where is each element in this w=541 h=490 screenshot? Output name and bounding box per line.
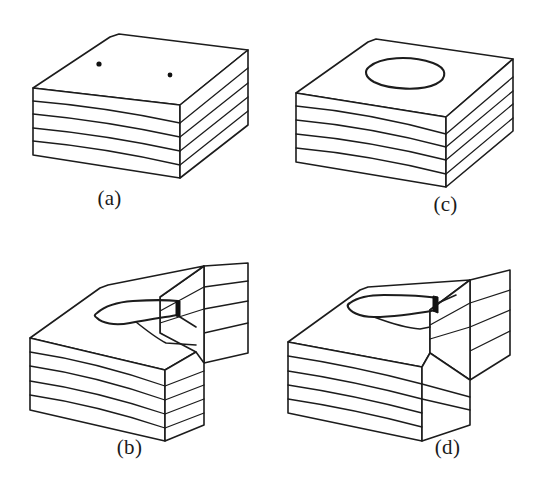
panel-label-c: (c) — [310, 192, 541, 217]
panel-label-a: (a) — [0, 186, 245, 211]
figure-container: (a) (c) — [0, 0, 541, 490]
top-face-dot-right — [168, 73, 173, 78]
top-face-dot-left — [96, 61, 101, 66]
rear-block-right-face — [204, 263, 248, 363]
tongue-dark-tick — [176, 301, 180, 317]
tongue-dark-tick — [433, 296, 438, 313]
panel-b: (b) — [0, 245, 271, 490]
panel-label-d: (d) — [312, 435, 541, 460]
panel-a: (a) — [0, 0, 271, 245]
panel-d: (d) — [270, 245, 541, 490]
panel-c: (c) — [270, 0, 541, 245]
panel-label-b: (b) — [0, 435, 265, 460]
